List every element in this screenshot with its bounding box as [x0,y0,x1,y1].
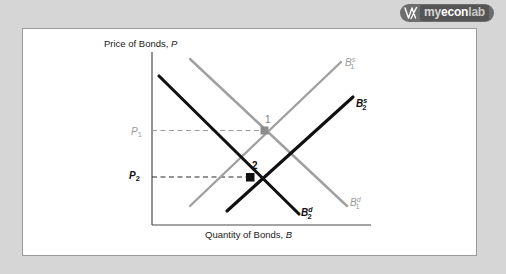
curve-label-supply-2: Bs2 [356,97,366,112]
curve-label-supply-1: Bs1 [345,56,354,71]
equilibrium-label-1: 1 [265,114,271,125]
equilibrium-label-2: 2 [252,160,258,171]
price-tick-p1: P1 [131,126,142,139]
logo-bar: myeconlab [0,0,506,28]
x-axis-variable: B [286,229,292,240]
curve-label-demand-1: Bd1 [350,196,360,211]
myeconlab-mark-icon [403,6,420,20]
curve-label-demand-2: Bd2 [301,206,312,221]
y-axis-label: Price of Bonds, P [104,38,177,49]
logo-text-econ: econ [441,6,468,19]
price-tick-p2: P2 [129,170,140,183]
y-axis-variable: P [171,38,177,49]
logo-text-lab: lab [468,6,485,19]
figure-panel [22,28,477,256]
x-axis-label: Quantity of Bonds, B [205,229,292,240]
myeconlab-wordmark: myeconlab [420,5,489,21]
logo-text-my: my [424,6,441,19]
myeconlab-logo: myeconlab [400,4,494,22]
